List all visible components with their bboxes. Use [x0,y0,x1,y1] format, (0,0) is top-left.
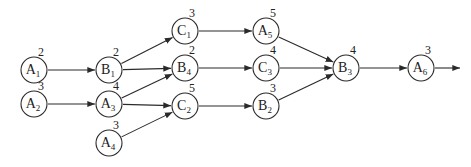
duration-label: 2 [38,45,44,59]
duration-label: 4 [113,79,119,93]
node-b4: B42 [172,43,198,81]
activity-network-diagram: A12A23B12A34A43C13B42C25A55C34B23B34A63 [0,0,471,167]
duration-label: 2 [189,43,195,57]
node-a1: A12 [21,45,47,83]
duration-label: 2 [113,45,119,59]
node-a4: A43 [96,118,122,156]
node-c1: C13 [172,6,198,44]
duration-label: 3 [270,81,276,95]
nodes-layer: A12A23B12A34A43C13B42C25A55C34B23B34A63 [21,6,434,156]
node-a5: A55 [253,6,279,44]
edges-layer [48,31,460,137]
node-b2: B23 [253,81,279,119]
edge-b1-to-c1 [121,37,172,63]
edge-a4-to-c2 [122,112,173,137]
edge-b2-to-b3 [279,74,334,100]
node-c3: C34 [253,43,279,81]
duration-label: 5 [189,81,195,95]
duration-label: 5 [270,6,276,20]
duration-label: 3 [189,6,195,20]
node-c2: C25 [172,81,198,119]
node-b3: B34 [333,43,359,81]
duration-label: 3 [113,118,119,132]
duration-label: 4 [350,43,356,57]
edge-b1-to-b4 [123,68,171,69]
node-b1: B12 [96,45,122,83]
duration-label: 3 [38,79,44,93]
node-a6: A63 [408,43,434,81]
node-a2: A23 [21,79,47,117]
edge-a3-to-c2 [123,104,171,105]
edge-a3-to-b4 [122,74,173,98]
duration-label: 3 [425,43,431,57]
node-a3: A34 [96,79,122,117]
edge-a5-to-b3 [279,37,334,62]
duration-label: 4 [270,43,276,57]
